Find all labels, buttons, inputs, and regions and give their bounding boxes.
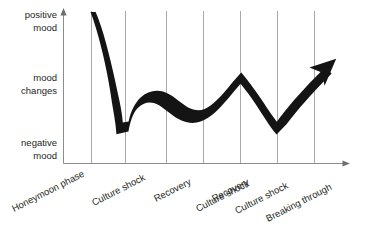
y-label-negative-line2: mood (33, 150, 57, 161)
x-axis-labels: Honeymoon phase Culture shock Recovery C… (10, 168, 333, 224)
y-label-positive-line2: mood (33, 22, 57, 33)
y-label-negative-line1: negative (21, 137, 57, 148)
x-axis-arrowhead (343, 160, 351, 166)
y-axis-labels: positive mood mood changes negative mood (21, 9, 57, 161)
x-axis (64, 160, 351, 166)
y-axis (60, 8, 66, 164)
mood-curve-stroke (91, 12, 332, 134)
y-axis-arrowhead (60, 8, 66, 16)
x-label-culture-shock-1: Culture shock (90, 171, 147, 207)
y-label-changes-line1: mood (33, 72, 57, 83)
x-label-recovery-1: Recovery (152, 176, 193, 204)
culture-shock-chart: positive mood mood changes negative mood… (0, 0, 368, 236)
chart-canvas: positive mood mood changes negative mood… (0, 0, 368, 236)
y-label-changes-line2: changes (21, 85, 57, 96)
y-label-positive-line1: positive (25, 9, 57, 20)
x-label-honeymoon-phase: Honeymoon phase (10, 168, 86, 214)
gridlines (92, 11, 315, 163)
mood-curve (91, 12, 337, 134)
